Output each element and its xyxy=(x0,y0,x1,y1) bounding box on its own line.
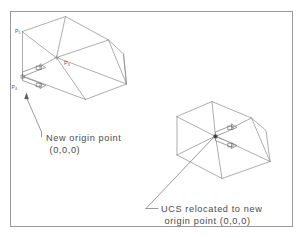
label-p3-subscript: 3 xyxy=(68,63,70,67)
left-bottom-front-left xyxy=(23,76,86,100)
right-bottom-front-left xyxy=(177,155,222,179)
ucs-right-y-arm xyxy=(216,137,232,148)
label-p4-subscript: 4 xyxy=(15,87,17,91)
left-leader-line xyxy=(27,98,42,138)
left-top-face xyxy=(23,17,109,58)
left-leader-arrowhead xyxy=(24,93,29,100)
left-annotation-leader xyxy=(24,93,41,138)
left-top-ridge xyxy=(57,17,66,58)
left-diagonal-to-bottom xyxy=(57,58,86,100)
right-slope-edge-a xyxy=(177,136,216,155)
right-annotation-line1: UCS relocated to new xyxy=(161,204,262,214)
figure-canvas: P 5 P 3 P 4 New origin point (0,0,0) xyxy=(0,0,304,238)
left-annotation-line2: (0,0,0) xyxy=(50,145,81,155)
left-annotation-line1: New origin point xyxy=(46,133,121,143)
right-top-face xyxy=(177,102,252,137)
right-annotation-line2: origin point (0,0,0) xyxy=(165,216,251,226)
ucs-left-y-arm xyxy=(23,77,41,88)
technical-diagram: P 5 P 3 P 4 New origin point (0,0,0) xyxy=(0,0,304,238)
left-right-upper-face xyxy=(109,40,127,84)
ucs-left-x-arm xyxy=(23,66,41,77)
right-bottom-front-right xyxy=(222,162,270,179)
right-top-ridge xyxy=(212,102,216,137)
ucs-icon-original xyxy=(21,64,46,89)
right-annotation-leader xyxy=(146,138,214,209)
left-bottom-front-right xyxy=(86,84,127,100)
ucs-right-x-arm xyxy=(216,126,232,137)
label-p5-subscript: 5 xyxy=(19,31,21,35)
right-leader-line xyxy=(146,138,214,209)
ucs-right-origin-dot xyxy=(214,135,217,138)
